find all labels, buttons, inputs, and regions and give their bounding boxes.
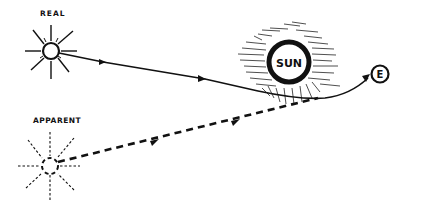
arrow-icon <box>198 75 206 82</box>
apparent-label: APPARENT <box>33 116 82 125</box>
real-label: REAL <box>40 9 65 18</box>
sun: SUN <box>269 42 309 82</box>
apparent-light-path <box>58 98 318 162</box>
light-deflection-diagram: REAL APPARENT <box>0 0 438 211</box>
earth-label: E <box>377 69 384 80</box>
real-star: REAL <box>25 9 77 79</box>
arrow-icon <box>362 74 370 82</box>
arrow-icon <box>99 59 106 65</box>
arrow-icon <box>150 139 159 146</box>
sun-label: SUN <box>276 57 302 70</box>
arrow-icon <box>231 119 240 126</box>
apparent-star-circle <box>42 158 58 174</box>
earth: E <box>372 66 389 83</box>
real-light-path <box>59 53 368 98</box>
real-star-circle <box>43 43 59 59</box>
